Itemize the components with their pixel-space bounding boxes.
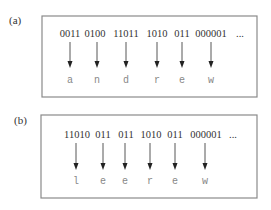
huffman-decoding-diagram: (a) 0011 0100 11011 1010 011 000001 ... …: [0, 0, 271, 210]
decoded-letter: d: [123, 75, 129, 86]
ellipsis: ...: [229, 129, 237, 140]
code: 1010: [147, 28, 168, 39]
decoded-letter: a: [67, 75, 73, 86]
code: 1010: [141, 129, 162, 140]
decoded-letter: r: [147, 176, 153, 187]
decoded-letter: e: [179, 75, 185, 86]
code: 011: [167, 129, 182, 140]
decoded-letter: r: [154, 75, 160, 86]
decoded-letter: w: [208, 75, 214, 86]
code: 011: [118, 129, 133, 140]
decoded-letter: l: [73, 176, 79, 187]
decoded-letter: n: [94, 75, 100, 86]
panel-b-label: (b): [14, 114, 27, 127]
decoded-letter: e: [172, 176, 178, 187]
panel-a-label: (a): [9, 14, 22, 27]
code: 011: [174, 28, 189, 39]
arrow-icon: [101, 143, 106, 170]
panel-a: (a) 0011 0100 11011 1010 011 000001 ... …: [9, 14, 257, 97]
arrow-icon: [209, 42, 214, 68]
code: 0011: [60, 28, 81, 39]
decoded-letter: e: [100, 176, 106, 187]
ellipsis: ...: [236, 28, 244, 39]
arrow-icon: [155, 42, 160, 68]
decoded-letter: w: [202, 176, 208, 187]
arrow-icon: [148, 143, 153, 170]
code: 011: [95, 129, 110, 140]
code: 11011: [113, 28, 138, 39]
arrow-icon: [173, 143, 178, 170]
arrow-icon: [124, 42, 129, 68]
arrow-icon: [68, 42, 73, 68]
panel-b: (b) 11010 011 011 1010 011 000001 ... l …: [14, 114, 257, 198]
decoded-letter: e: [122, 176, 128, 187]
code: 000001: [195, 28, 227, 39]
arrow-icon: [180, 42, 185, 68]
arrow-icon: [74, 143, 79, 170]
code: 11010: [64, 129, 90, 140]
arrow-icon: [123, 143, 128, 170]
arrow-icon: [95, 42, 100, 68]
code: 0100: [85, 28, 106, 39]
code: 000001: [190, 129, 222, 140]
arrow-icon: [203, 143, 208, 170]
